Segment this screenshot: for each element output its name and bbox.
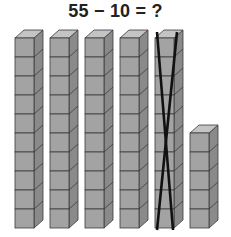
unit-cube (190, 133, 209, 152)
unit-cube (85, 57, 104, 76)
unit-cube (85, 209, 104, 228)
unit-cube (15, 133, 34, 152)
unit-cube (85, 171, 104, 190)
unit-cube (120, 57, 139, 76)
unit-cube (190, 171, 209, 190)
unit-cube (120, 209, 139, 228)
unit-cube (50, 95, 69, 114)
unit-cube (120, 38, 139, 57)
unit-cube (15, 57, 34, 76)
unit-cube (50, 57, 69, 76)
ten-rod-2 (50, 30, 78, 228)
ten-rod-1 (15, 30, 43, 228)
unit-cube (50, 152, 69, 171)
unit-cube (50, 133, 69, 152)
unit-cube (85, 133, 104, 152)
unit-cube (85, 95, 104, 114)
unit-cube (120, 114, 139, 133)
unit-cube (15, 95, 34, 114)
unit-cube (50, 190, 69, 209)
unit-cube (155, 57, 174, 76)
unit-cube (15, 76, 34, 95)
unit-cube (120, 76, 139, 95)
unit-cube (50, 38, 69, 57)
unit-cube (190, 152, 209, 171)
unit-cube (190, 209, 209, 228)
unit-cube (120, 190, 139, 209)
unit-cube (15, 38, 34, 57)
unit-cube (85, 190, 104, 209)
ten-rod-5 (155, 30, 183, 230)
unit-cube (120, 133, 139, 152)
unit-cube (50, 76, 69, 95)
unit-cube (155, 171, 174, 190)
unit-cube (50, 114, 69, 133)
ten-rod-4 (120, 30, 148, 228)
unit-cube (15, 152, 34, 171)
unit-cube (15, 171, 34, 190)
base-ten-blocks-diagram (0, 0, 231, 237)
ones-column (190, 125, 218, 228)
unit-cube (15, 190, 34, 209)
unit-cube (85, 114, 104, 133)
unit-cube (15, 114, 34, 133)
side-face (209, 125, 218, 228)
unit-cube (50, 209, 69, 228)
ten-rod-3 (85, 30, 113, 228)
unit-cube (120, 152, 139, 171)
unit-cube (190, 190, 209, 209)
unit-cube (50, 171, 69, 190)
unit-cube (120, 95, 139, 114)
unit-cube (120, 171, 139, 190)
unit-cube (85, 76, 104, 95)
unit-cube (15, 209, 34, 228)
unit-cube (85, 38, 104, 57)
unit-cube (85, 152, 104, 171)
